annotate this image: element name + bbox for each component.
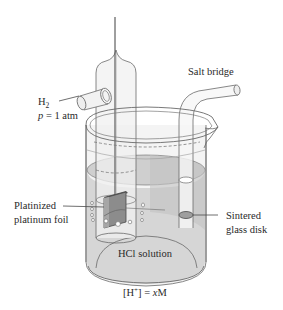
h2-leader-line (59, 96, 79, 101)
salt-bridge-label: Salt bridge (188, 66, 234, 77)
foil-label-line1: Platinized (14, 200, 57, 211)
bubble (91, 201, 94, 204)
disk-label-line1: Sintered (226, 210, 262, 221)
bubble (92, 218, 95, 221)
bubble (104, 219, 108, 223)
bubble (141, 211, 144, 214)
h2-label: H2 (38, 96, 50, 110)
bubble (116, 222, 121, 227)
foil-label-line2: platinum foil (14, 214, 69, 225)
bubble (142, 203, 145, 207)
bubble (91, 213, 94, 216)
concentration-label: [H+] = xM (123, 286, 167, 298)
bubble (128, 220, 132, 224)
salt-bridge-tube (179, 85, 238, 228)
sintered-glass-disk (179, 212, 193, 219)
bubble (91, 207, 94, 210)
pressure-label: p = 1 atm (37, 110, 78, 121)
foil-highlight (104, 197, 109, 228)
solution-label: HCl solution (118, 248, 173, 259)
bubble (141, 218, 144, 221)
hydrogen-electrode-diagram: H2 p = 1 atm Salt bridge Platinized plat… (0, 0, 283, 310)
disk-label-line2: glass disk (226, 224, 268, 235)
salt-bridge-inner-ring (179, 177, 193, 183)
